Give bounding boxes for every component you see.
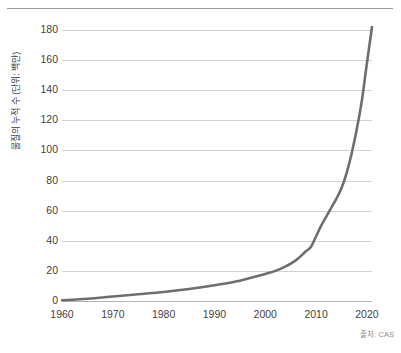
- gridline-y-20: [62, 271, 372, 272]
- y-tick-label-100: 100: [24, 144, 58, 155]
- y-tick-label-180: 180: [24, 24, 58, 35]
- y-tick-label-80: 80: [24, 175, 58, 186]
- gridline-y-140: [62, 90, 372, 91]
- x-tick-label-2000: 2000: [241, 308, 289, 320]
- x-tick-label-1960: 1960: [38, 308, 86, 320]
- y-axis-title: 물질의 누적 수 (단위: 백만): [11, 21, 21, 181]
- gridline-y-0: [62, 301, 372, 302]
- gridline-y-120: [62, 120, 372, 121]
- x-tick-label-1980: 1980: [140, 308, 188, 320]
- gridline-y-60: [62, 211, 372, 212]
- gridline-y-180: [62, 30, 372, 31]
- y-tick-label-120: 120: [24, 114, 58, 125]
- chart-figure: 물질의 누적 수 (단위: 백만) 0204060801001201401601…: [0, 0, 401, 353]
- y-tick-label-0: 0: [24, 295, 58, 306]
- x-tick-label-2020: 2020: [343, 308, 391, 320]
- y-tick-label-20: 20: [24, 265, 58, 276]
- y-tick-label-60: 60: [24, 205, 58, 216]
- gridline-y-160: [62, 60, 372, 61]
- source-note: 출처: CAS: [360, 330, 394, 339]
- y-tick-label-160: 160: [24, 54, 58, 65]
- y-tick-label-40: 40: [24, 235, 58, 246]
- gridline-y-40: [62, 241, 372, 242]
- plot-area: [62, 30, 372, 301]
- gridline-y-100: [62, 150, 372, 151]
- y-tick-label-140: 140: [24, 84, 58, 95]
- x-tick-label-2010: 2010: [292, 308, 340, 320]
- top-divider-rule: [7, 8, 393, 9]
- x-tick-label-1990: 1990: [190, 308, 238, 320]
- x-tick-label-1970: 1970: [89, 308, 137, 320]
- gridline-y-80: [62, 181, 372, 182]
